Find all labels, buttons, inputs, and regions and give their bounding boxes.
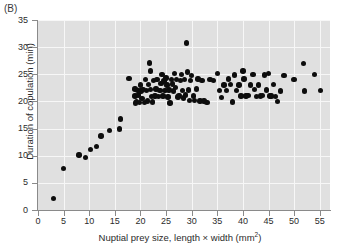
gridline-vertical bbox=[140, 20, 141, 210]
x-axis-tick-label: 20 bbox=[128, 217, 152, 226]
data-point bbox=[278, 88, 283, 93]
data-point bbox=[150, 99, 155, 104]
data-point bbox=[167, 100, 172, 105]
gridline-vertical bbox=[217, 20, 218, 210]
data-point bbox=[76, 152, 81, 157]
data-point bbox=[172, 71, 177, 76]
gridline-horizontal bbox=[38, 101, 330, 102]
x-axis-tick-label: 55 bbox=[308, 217, 332, 226]
y-axis-tick bbox=[32, 101, 37, 102]
gridline-vertical bbox=[64, 20, 65, 210]
y-axis-tick bbox=[32, 20, 37, 21]
data-point bbox=[302, 88, 307, 93]
panel-label: (B) bbox=[4, 3, 17, 14]
data-point bbox=[117, 126, 122, 131]
plot-area bbox=[38, 20, 330, 210]
data-point bbox=[165, 94, 170, 99]
data-point bbox=[184, 40, 189, 45]
data-point bbox=[163, 75, 168, 80]
data-point bbox=[199, 78, 204, 83]
y-axis-tick-label: 5 bbox=[0, 178, 28, 187]
x-axis-title-tail: ) bbox=[258, 232, 261, 243]
gridline-vertical bbox=[243, 20, 244, 210]
y-axis-tick bbox=[32, 183, 37, 184]
data-point bbox=[148, 68, 153, 73]
data-point bbox=[281, 73, 286, 78]
x-axis-tick-label: 0 bbox=[26, 217, 50, 226]
y-axis-tick-label: 0 bbox=[0, 206, 28, 215]
y-axis-tick-label: 30 bbox=[0, 43, 28, 52]
data-point bbox=[266, 71, 271, 76]
y-axis-tick bbox=[32, 210, 37, 211]
data-point bbox=[232, 72, 237, 77]
x-axis-title: Nuptial prey size, length × width (mm2) bbox=[30, 231, 330, 243]
gridline-vertical bbox=[166, 20, 167, 210]
data-point bbox=[236, 82, 241, 87]
data-point bbox=[241, 76, 246, 81]
gridline-vertical bbox=[320, 20, 321, 210]
data-point bbox=[88, 147, 93, 152]
x-axis-tick-label: 15 bbox=[103, 217, 127, 226]
data-point bbox=[204, 100, 209, 105]
data-point bbox=[118, 116, 123, 121]
data-point bbox=[256, 82, 261, 87]
y-axis-tick-label: 15 bbox=[0, 124, 28, 133]
gridline-vertical bbox=[294, 20, 295, 210]
x-axis-title-text: Nuptial prey size, length × width (mm bbox=[99, 232, 255, 243]
gridline-vertical bbox=[192, 20, 193, 210]
data-point bbox=[250, 72, 255, 77]
y-axis-tick-label: 25 bbox=[0, 70, 28, 79]
x-axis-tick-label: 35 bbox=[205, 217, 229, 226]
data-point bbox=[264, 87, 269, 92]
gridline-horizontal bbox=[38, 183, 330, 184]
data-point bbox=[245, 93, 250, 98]
x-axis-tick-label: 30 bbox=[180, 217, 204, 226]
data-point bbox=[211, 78, 216, 83]
y-axis-tick bbox=[32, 129, 37, 130]
y-axis-tick bbox=[32, 47, 37, 48]
x-axis-tick-label: 10 bbox=[77, 217, 101, 226]
y-axis-tick bbox=[32, 74, 37, 75]
y-axis-tick bbox=[32, 156, 37, 157]
x-axis-tick-label: 5 bbox=[52, 217, 76, 226]
x-axis-tick-label: 45 bbox=[257, 217, 281, 226]
data-point bbox=[173, 85, 178, 90]
data-point bbox=[147, 60, 152, 65]
gridline-horizontal bbox=[38, 156, 330, 157]
gridline-vertical bbox=[269, 20, 270, 210]
y-axis-tick-label: 20 bbox=[0, 97, 28, 106]
x-axis-tick-label: 50 bbox=[282, 217, 306, 226]
gridline-horizontal bbox=[38, 20, 330, 21]
scatter-plot-figure: (B) Duration of copulation (min) Nuptial… bbox=[0, 0, 341, 250]
x-axis-tick-label: 25 bbox=[154, 217, 178, 226]
data-point bbox=[194, 86, 199, 91]
y-axis-tick-label: 35 bbox=[0, 16, 28, 25]
y-axis-line bbox=[37, 20, 38, 211]
gridline-horizontal bbox=[38, 47, 330, 48]
gridline-horizontal bbox=[38, 129, 330, 130]
data-point bbox=[98, 133, 103, 138]
x-axis-line bbox=[37, 210, 331, 211]
gridline-vertical bbox=[89, 20, 90, 210]
data-point bbox=[230, 99, 235, 104]
x-axis-tick-label: 40 bbox=[231, 217, 255, 226]
data-point bbox=[183, 92, 188, 97]
data-point bbox=[240, 68, 245, 73]
gridline-vertical bbox=[115, 20, 116, 210]
data-point bbox=[186, 87, 191, 92]
y-axis-tick-label: 10 bbox=[0, 151, 28, 160]
